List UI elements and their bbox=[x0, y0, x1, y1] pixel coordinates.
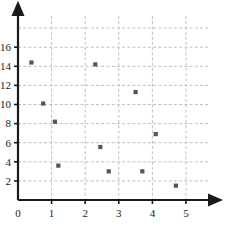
y-tick-label: 16 bbox=[0, 41, 12, 53]
data-point bbox=[134, 90, 138, 94]
y-tick-label: 2 bbox=[6, 175, 12, 187]
data-point bbox=[53, 120, 57, 124]
x-tick-label: 4 bbox=[150, 207, 156, 219]
y-tick-label: 6 bbox=[6, 137, 12, 149]
axis-lines bbox=[18, 14, 210, 200]
data-point bbox=[56, 164, 60, 168]
x-tick-label: 0 bbox=[15, 207, 21, 219]
data-point bbox=[98, 145, 102, 149]
data-point bbox=[29, 60, 33, 64]
x-tick-label: 5 bbox=[183, 207, 189, 219]
y-tick-label: 12 bbox=[0, 79, 11, 91]
x-tick-label: 2 bbox=[82, 207, 88, 219]
data-point bbox=[174, 184, 178, 188]
data-point bbox=[93, 62, 97, 66]
x-tick-label: 3 bbox=[116, 207, 122, 219]
y-tick-label: 4 bbox=[6, 156, 12, 168]
y-tick-label: 8 bbox=[6, 117, 12, 129]
tick-labels: 246810121416012345 bbox=[0, 41, 189, 219]
data-point bbox=[41, 101, 45, 105]
data-point bbox=[140, 169, 144, 173]
plot-area: 246810121416012345 bbox=[0, 0, 226, 227]
y-tick-label: 10 bbox=[0, 98, 12, 110]
data-point bbox=[107, 169, 111, 173]
y-tick-label: 14 bbox=[0, 60, 12, 72]
scatter-chart: 246810121416012345 bbox=[0, 0, 226, 227]
x-tick-label: 1 bbox=[49, 207, 55, 219]
gridlines bbox=[18, 16, 208, 200]
data-point bbox=[154, 132, 158, 136]
